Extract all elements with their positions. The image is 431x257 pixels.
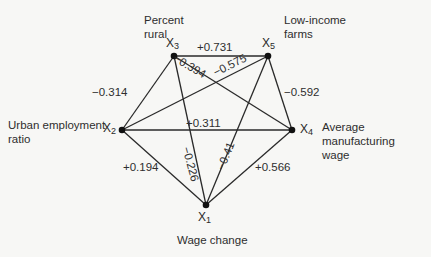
label-x4-line2: wage — [322, 148, 431, 162]
edge-label-x4-x1: +0.566 — [255, 161, 291, 173]
label-x5-line1: Low-income — [284, 13, 346, 27]
node-x4-dot — [289, 127, 296, 134]
label-x1-line1: Wage change — [177, 233, 248, 247]
label-x3-line2: rural — [144, 27, 184, 41]
node-x1-dot — [203, 202, 210, 209]
label-x4-line1: Average manufacturing — [322, 120, 431, 148]
label-wage-change: Wage change — [177, 233, 248, 247]
label-average-manufacturing-wage: Average manufacturing wage — [322, 120, 431, 162]
label-urban-employment-ratio: Urban employment ratio — [8, 118, 105, 146]
node-x4-name: X4 — [300, 122, 313, 137]
node-x1-name: X1 — [198, 210, 211, 225]
edge-label-x5-x4: −0.592 — [284, 86, 320, 98]
label-x2-line1: Urban employment — [8, 118, 105, 132]
edge-label-x3-x2: −0.314 — [92, 86, 128, 98]
node-x5-name: X5 — [262, 36, 275, 51]
edge-label-x2-x1: +0.194 — [123, 161, 159, 173]
label-x3-line1: Percent — [144, 13, 184, 27]
label-low-income-farms: Low-income farms — [284, 13, 346, 41]
label-percent-rural: Percent rural — [144, 13, 184, 41]
node-x5-dot — [265, 53, 272, 60]
label-x2-line2: ratio — [8, 132, 105, 146]
label-x5-line2: farms — [284, 27, 346, 41]
node-x2-dot — [119, 127, 126, 134]
edge-x3-x2 — [122, 56, 174, 130]
edge-label-x3-x5: +0.731 — [197, 41, 233, 53]
edge-label-x2-x4: +0.311 — [186, 117, 221, 129]
